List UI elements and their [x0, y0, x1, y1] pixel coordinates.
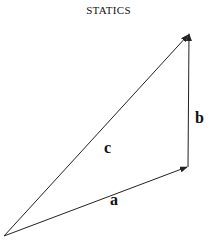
vector-diagram	[0, 0, 217, 252]
vector-c-label: c	[104, 140, 111, 156]
vector-a-arrow	[4, 167, 187, 236]
vector-b-arrow	[188, 34, 189, 167]
vector-b-label: b	[195, 110, 204, 126]
vector-a-label: a	[110, 192, 118, 208]
vector-c-arrow	[4, 35, 188, 236]
